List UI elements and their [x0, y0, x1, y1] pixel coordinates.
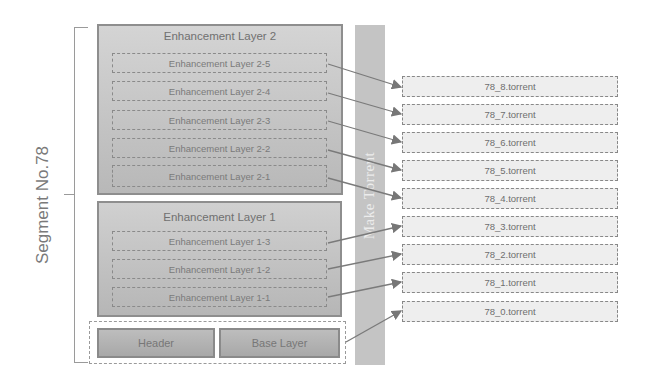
torrent-78-1: 78_1.torrent [402, 272, 618, 293]
torrent-78-4: 78_4.torrent [402, 188, 618, 209]
torrent-78-8: 78_8.torrent [402, 76, 618, 97]
torrent-78-3: 78_3.torrent [402, 216, 618, 237]
torrent-78-2: 78_2.torrent [402, 244, 618, 265]
torrent-78-7: 78_7.torrent [402, 104, 618, 125]
torrent-78-6: 78_6.torrent [402, 132, 618, 153]
torrent-78-5: 78_5.torrent [402, 160, 618, 181]
torrent-78-0: 78_0.torrent [402, 301, 618, 322]
